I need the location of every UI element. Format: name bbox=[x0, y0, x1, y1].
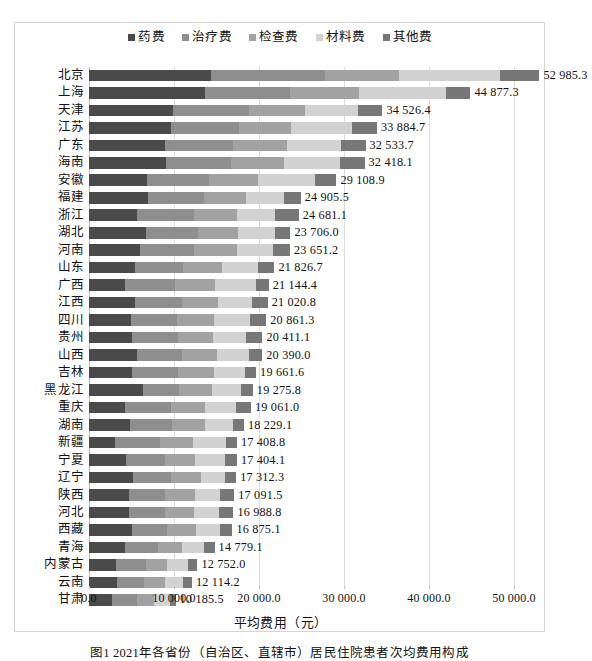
bar-segment-1[interactable] bbox=[89, 472, 133, 484]
stacked-bar[interactable] bbox=[89, 192, 301, 204]
bar-segment-4[interactable] bbox=[287, 140, 341, 152]
bar-segment-1[interactable] bbox=[89, 262, 135, 274]
chart-row[interactable]: 青海14 779.1 bbox=[89, 539, 592, 556]
bar-segment-1[interactable] bbox=[89, 489, 129, 501]
bar-segment-5[interactable] bbox=[352, 122, 377, 134]
stacked-bar[interactable] bbox=[89, 262, 274, 274]
bar-segment-3[interactable] bbox=[209, 174, 258, 186]
chart-row[interactable]: 北京52 985.3 bbox=[89, 67, 592, 84]
stacked-bar[interactable] bbox=[89, 332, 262, 344]
bar-segment-1[interactable] bbox=[89, 384, 143, 396]
stacked-bar[interactable] bbox=[89, 507, 233, 519]
chart-row[interactable]: 贵州20 411.1 bbox=[89, 329, 592, 346]
stacked-bar[interactable] bbox=[89, 402, 251, 414]
chart-row[interactable]: 浙江24 681.1 bbox=[89, 207, 592, 224]
bar-segment-4[interactable] bbox=[291, 122, 352, 134]
bar-segment-1[interactable] bbox=[89, 524, 132, 536]
bar-segment-3[interactable] bbox=[177, 314, 214, 326]
bar-segment-3[interactable] bbox=[171, 402, 205, 414]
bar-segment-3[interactable] bbox=[290, 87, 359, 99]
bar-segment-4[interactable] bbox=[237, 209, 275, 221]
bar-segment-4[interactable] bbox=[195, 454, 225, 466]
bar-segment-2[interactable] bbox=[165, 140, 234, 152]
bar-segment-4[interactable] bbox=[237, 244, 273, 256]
chart-row[interactable]: 福建24 905.5 bbox=[89, 189, 592, 206]
bar-segment-5[interactable] bbox=[258, 262, 274, 274]
bar-segment-1[interactable] bbox=[89, 437, 115, 449]
stacked-bar[interactable] bbox=[89, 419, 244, 431]
bar-segment-1[interactable] bbox=[89, 297, 135, 309]
bar-segment-3[interactable] bbox=[171, 472, 201, 484]
bar-segment-3[interactable] bbox=[233, 140, 287, 152]
legend-item-3[interactable]: 检查费 bbox=[249, 31, 299, 44]
legend-item-1[interactable]: 药费 bbox=[128, 31, 165, 44]
bar-segment-3[interactable] bbox=[249, 105, 305, 117]
bar-segment-1[interactable] bbox=[89, 454, 126, 466]
bar-segment-1[interactable] bbox=[89, 244, 140, 256]
stacked-bar[interactable] bbox=[89, 454, 237, 466]
bar-segment-2[interactable] bbox=[211, 70, 326, 82]
chart-row[interactable]: 河北16 988.8 bbox=[89, 504, 592, 521]
bar-segment-4[interactable] bbox=[182, 542, 204, 554]
stacked-bar[interactable] bbox=[89, 297, 268, 309]
chart-row[interactable]: 内蒙古12 752.0 bbox=[89, 556, 592, 573]
bar-segment-1[interactable] bbox=[89, 349, 137, 361]
bar-segment-2[interactable] bbox=[129, 507, 166, 519]
bar-segment-5[interactable] bbox=[273, 244, 290, 256]
bar-segment-2[interactable] bbox=[140, 244, 194, 256]
bar-segment-2[interactable] bbox=[166, 157, 231, 169]
stacked-bar[interactable] bbox=[89, 472, 236, 484]
bar-segment-3[interactable] bbox=[158, 542, 182, 554]
bar-segment-5[interactable] bbox=[225, 454, 237, 466]
bar-segment-3[interactable] bbox=[146, 559, 167, 571]
bar-segment-5[interactable] bbox=[236, 402, 251, 414]
stacked-bar[interactable] bbox=[89, 174, 336, 186]
bar-segment-4[interactable] bbox=[212, 384, 241, 396]
chart-row[interactable]: 吉林19 661.6 bbox=[89, 364, 592, 381]
bar-segment-5[interactable] bbox=[252, 297, 267, 309]
chart-row[interactable]: 湖北23 706.0 bbox=[89, 224, 592, 241]
chart-row[interactable]: 西藏16 875.1 bbox=[89, 521, 592, 538]
bar-segment-3[interactable] bbox=[204, 192, 247, 204]
stacked-bar[interactable] bbox=[89, 314, 266, 326]
bar-segment-1[interactable] bbox=[89, 157, 166, 169]
bar-segment-1[interactable] bbox=[89, 192, 148, 204]
stacked-bar[interactable] bbox=[89, 577, 192, 589]
bar-segment-5[interactable] bbox=[183, 577, 192, 589]
bar-segment-4[interactable] bbox=[246, 192, 284, 204]
bar-segment-4[interactable] bbox=[214, 314, 251, 326]
chart-row[interactable]: 河南23 651.2 bbox=[89, 242, 592, 259]
bar-segment-5[interactable] bbox=[219, 507, 233, 519]
bar-segment-1[interactable] bbox=[89, 140, 165, 152]
chart-row[interactable]: 山东21 826.7 bbox=[89, 259, 592, 276]
stacked-bar[interactable] bbox=[89, 437, 237, 449]
chart-row[interactable]: 广西21 144.4 bbox=[89, 277, 592, 294]
stacked-bar[interactable] bbox=[89, 244, 290, 256]
bar-segment-4[interactable] bbox=[205, 402, 236, 414]
stacked-bar[interactable] bbox=[89, 70, 539, 82]
bar-segment-4[interactable] bbox=[201, 472, 225, 484]
chart-row[interactable]: 辽宁17 312.3 bbox=[89, 469, 592, 486]
bar-segment-4[interactable] bbox=[238, 227, 275, 239]
bar-segment-2[interactable] bbox=[126, 454, 166, 466]
bar-segment-5[interactable] bbox=[204, 542, 215, 554]
bar-segment-4[interactable] bbox=[205, 419, 232, 431]
stacked-bar[interactable] bbox=[89, 384, 253, 396]
stacked-bar[interactable] bbox=[89, 542, 215, 554]
stacked-bar[interactable] bbox=[89, 140, 366, 152]
chart-row[interactable]: 陕西17 091.5 bbox=[89, 487, 592, 504]
chart-row[interactable]: 上海44 877.3 bbox=[89, 84, 592, 101]
chart-row[interactable]: 新疆17 408.8 bbox=[89, 434, 592, 451]
bar-segment-3[interactable] bbox=[175, 279, 215, 291]
chart-row[interactable]: 重庆19 061.0 bbox=[89, 399, 592, 416]
bar-segment-3[interactable] bbox=[231, 157, 284, 169]
bar-segment-4[interactable] bbox=[196, 524, 220, 536]
bar-segment-3[interactable] bbox=[165, 507, 193, 519]
bar-segment-3[interactable] bbox=[160, 437, 193, 449]
stacked-bar[interactable] bbox=[89, 559, 197, 571]
bar-segment-4[interactable] bbox=[359, 87, 446, 99]
bar-segment-4[interactable] bbox=[217, 349, 248, 361]
bar-segment-5[interactable] bbox=[340, 157, 365, 169]
stacked-bar[interactable] bbox=[89, 367, 256, 379]
bar-segment-4[interactable] bbox=[213, 332, 246, 344]
